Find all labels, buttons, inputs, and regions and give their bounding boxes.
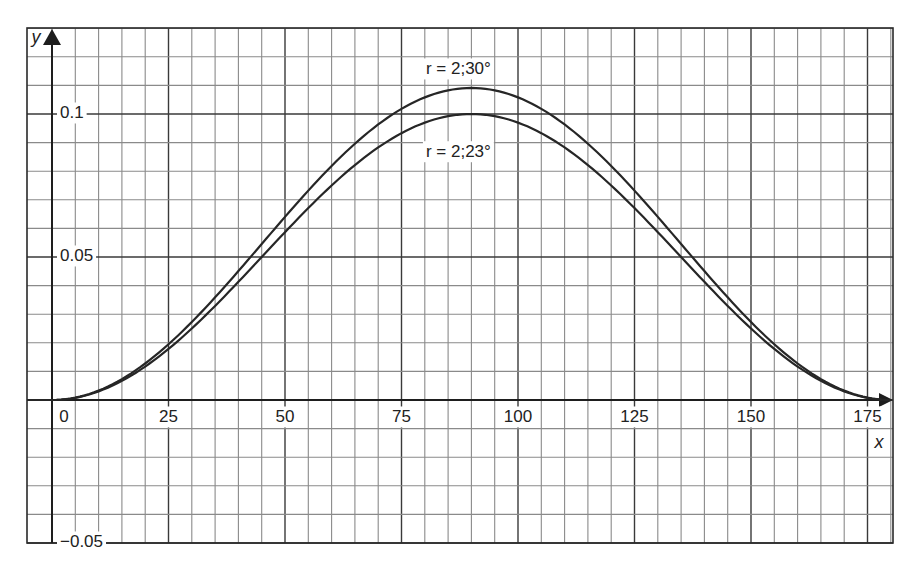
y-tick-label: 0.05	[60, 246, 93, 265]
x-axis-title: x	[874, 432, 885, 452]
x-tick-label: 75	[392, 407, 411, 426]
x-tick-label: 175	[853, 407, 881, 426]
curve-label-1: r = 2;30°	[426, 59, 491, 78]
x-tick-label: 100	[504, 407, 532, 426]
x-tick-label: 125	[620, 407, 648, 426]
y-tick-label: −0.05	[60, 532, 103, 551]
x-tick-label: 50	[276, 407, 295, 426]
y-axis-title: y	[30, 27, 42, 47]
x-tick-label: 0	[59, 407, 68, 426]
curve-label-2: r = 2;23°	[426, 142, 491, 161]
chart-canvas: 02550751001251501750.10.05−0.05xyr = 2;3…	[0, 0, 916, 578]
x-tick-label: 150	[737, 407, 765, 426]
y-tick-label: 0.1	[60, 103, 84, 122]
chart-background	[0, 0, 916, 578]
x-tick-label: 25	[159, 407, 178, 426]
